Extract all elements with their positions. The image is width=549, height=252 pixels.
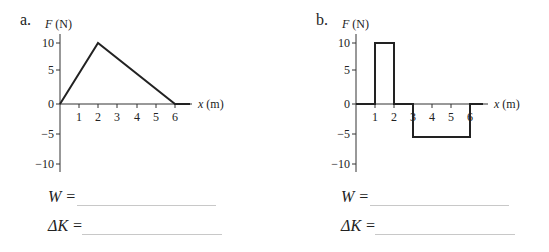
- panel-b-dk-label: ΔK =: [341, 217, 376, 235]
- svg-text:0: 0: [344, 97, 350, 111]
- panel-a-x-ticks: 1 2 3 4 5 6: [76, 104, 178, 124]
- panel-b-work-label: W =: [341, 188, 369, 206]
- panel-b-y-ticks: 10 5 0 −5 −10: [331, 36, 356, 171]
- svg-text:4: 4: [429, 110, 435, 124]
- panel-b-work-answer-line[interactable]: [370, 205, 509, 206]
- svg-text:−5: −5: [337, 127, 350, 141]
- svg-text:2: 2: [391, 110, 397, 124]
- svg-text:3: 3: [114, 110, 120, 124]
- panel-a-ylabel: F (N): [44, 17, 72, 31]
- svg-text:2: 2: [95, 110, 101, 124]
- panel-b-x-ticks: 1 2 3 4 5 6: [372, 104, 473, 124]
- svg-text:10: 10: [338, 36, 350, 50]
- svg-text:−10: −10: [331, 157, 350, 171]
- panel-a-dk-answer-line[interactable]: [82, 234, 222, 235]
- svg-text:1: 1: [76, 110, 82, 124]
- panel-a-xlabel: x (m): [197, 97, 224, 111]
- panel-a: a. F (N) 10 5 0 −5 −10 1 2: [20, 11, 224, 172]
- svg-text:−5: −5: [41, 127, 54, 141]
- svg-text:1: 1: [372, 110, 378, 124]
- panel-a-label: a.: [20, 11, 31, 28]
- svg-text:5: 5: [48, 63, 54, 77]
- panel-a-work-label: W =: [48, 188, 76, 206]
- panel-a-y-ticks: 10 5 0 −5 −10: [35, 36, 60, 171]
- panel-b: b. F (N) 10 5 0 −5 −10 1 2 3 4 5: [316, 11, 520, 172]
- panel-b-xlabel: x (m): [493, 97, 520, 111]
- panel-a-force-curve: [60, 43, 190, 104]
- svg-text:10: 10: [42, 36, 54, 50]
- svg-text:−10: −10: [35, 157, 54, 171]
- panel-b-label: b.: [316, 11, 328, 28]
- svg-text:6: 6: [172, 110, 178, 124]
- svg-text:5: 5: [344, 63, 350, 77]
- svg-text:0: 0: [48, 97, 54, 111]
- svg-text:5: 5: [153, 110, 159, 124]
- svg-text:5: 5: [448, 110, 454, 124]
- svg-text:4: 4: [134, 110, 140, 124]
- panel-b-ylabel: F (N): [341, 17, 369, 31]
- panel-a-dk-label: ΔK =: [48, 217, 83, 235]
- charts-canvas: a. F (N) 10 5 0 −5 −10 1 2: [0, 0, 549, 252]
- panel-a-work-answer-line[interactable]: [77, 205, 216, 206]
- panel-b-dk-answer-line[interactable]: [375, 234, 515, 235]
